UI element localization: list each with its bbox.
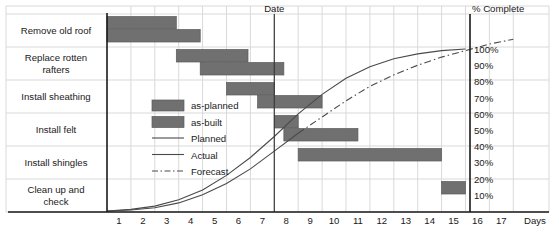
task-label: Install shingles bbox=[25, 157, 88, 168]
x-tick-label: 5 bbox=[212, 215, 217, 226]
percent-tick-label: 50% bbox=[474, 125, 494, 136]
x-tick-label: 17 bbox=[496, 215, 507, 226]
x-tick-label: 15 bbox=[448, 215, 459, 226]
x-tick-label: 9 bbox=[307, 215, 312, 226]
legend-label: as-planned bbox=[191, 100, 238, 111]
task-label: Install sheathing bbox=[21, 91, 90, 102]
legend-label: Planned bbox=[191, 133, 226, 144]
percent-tick-label: 20% bbox=[474, 174, 494, 185]
percent-tick-label: 70% bbox=[474, 93, 494, 104]
x-tick-label: 7 bbox=[260, 215, 265, 226]
gantt-bar bbox=[442, 182, 466, 195]
legend-swatch bbox=[152, 117, 184, 128]
percent-tick-labels: 100%90%80%70%60%50%40%30%20%10% bbox=[474, 44, 499, 201]
percent-tick-label: 80% bbox=[474, 76, 494, 87]
x-axis-title: Days bbox=[524, 215, 546, 226]
gantt-bar bbox=[200, 63, 284, 76]
gantt-bar bbox=[298, 149, 441, 162]
x-tick-label: 12 bbox=[377, 215, 388, 226]
x-tick-label: 2 bbox=[140, 215, 145, 226]
task-label: Install felt bbox=[36, 124, 77, 135]
task-label-column: Remove old roofReplace rottenraftersInst… bbox=[21, 25, 92, 207]
task-label: check bbox=[43, 196, 68, 207]
percent-tick-label: 60% bbox=[474, 109, 494, 120]
legend-swatch bbox=[152, 100, 184, 111]
x-tick-label: 1 bbox=[116, 215, 121, 226]
gantt-chart-figure: Remove old roofReplace rottenraftersInst… bbox=[0, 0, 559, 244]
gantt-bar bbox=[107, 30, 200, 43]
x-tick-label: 16 bbox=[472, 215, 483, 226]
legend-label: Forecast bbox=[191, 166, 229, 177]
gantt-bar bbox=[107, 17, 176, 30]
task-label: rafters bbox=[42, 64, 69, 75]
percent-complete-axis-title: % Complete bbox=[472, 3, 524, 14]
x-axis-tick-labels: 1234567891011121314151617 bbox=[116, 215, 506, 226]
x-tick-label: 3 bbox=[164, 215, 169, 226]
grid-lines bbox=[6, 6, 549, 212]
x-tick-label: 11 bbox=[353, 215, 363, 226]
x-tick-label: 6 bbox=[236, 215, 241, 226]
percent-tick-label: 40% bbox=[474, 141, 494, 152]
date-marker-label: Date bbox=[264, 3, 284, 14]
x-tick-label: 8 bbox=[284, 215, 289, 226]
percent-tick-label: 10% bbox=[474, 190, 494, 201]
chart-canvas: Remove old roofReplace rottenraftersInst… bbox=[0, 0, 559, 244]
x-tick-label: 10 bbox=[329, 215, 340, 226]
legend-label: as-built bbox=[191, 117, 222, 128]
x-tick-label: 14 bbox=[424, 215, 435, 226]
x-tick-label: 13 bbox=[400, 215, 411, 226]
percent-tick-label: 90% bbox=[474, 60, 494, 71]
task-label: Remove old roof bbox=[21, 25, 92, 36]
task-label: Replace rotten bbox=[25, 52, 87, 63]
x-tick-label: 4 bbox=[188, 215, 194, 226]
gantt-bar bbox=[227, 83, 275, 96]
gantt-bar bbox=[284, 129, 358, 142]
task-label: Clean up and bbox=[27, 184, 84, 195]
gantt-bar bbox=[176, 50, 248, 63]
chart-legend: as-plannedas-builtPlannedActualForecast bbox=[152, 100, 238, 177]
percent-tick-label: 100% bbox=[474, 44, 499, 55]
legend-label: Actual bbox=[191, 150, 218, 161]
percent-tick-label: 30% bbox=[474, 157, 494, 168]
